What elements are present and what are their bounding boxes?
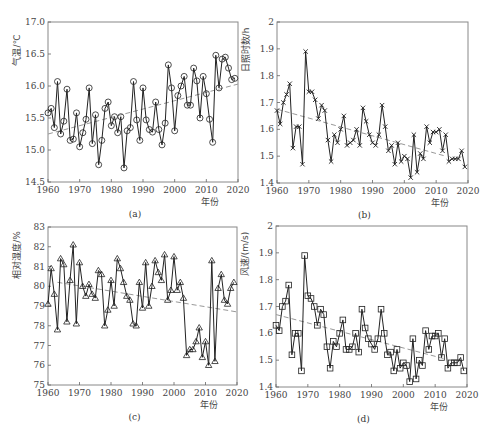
x-tick-label: 2020 <box>457 186 480 196</box>
x-axis-label: 年份 <box>200 399 218 410</box>
x-tick-label: 2000 <box>393 186 416 196</box>
y-tick-label: 1.8 <box>259 275 274 285</box>
x-tick-label: 2000 <box>163 388 186 398</box>
x-tick-label: 1980 <box>329 186 352 196</box>
y-tick-label: 1.4 <box>260 178 275 188</box>
y-tick-label: 81 <box>34 262 45 272</box>
y-axis-label: 日照时数/h <box>240 28 251 73</box>
y-tick-label: 1.6 <box>260 124 275 134</box>
y-tick-label: 1.4 <box>259 382 274 392</box>
data-series-line <box>277 52 465 178</box>
x-tick-label: 1980 <box>100 185 123 195</box>
data-series-line <box>276 256 464 382</box>
x-tick-label: 2010 <box>194 388 217 398</box>
y-tick-label: 2 <box>268 17 274 27</box>
x-axis-label: 年份 <box>431 197 449 208</box>
x-axis-label: 年份 <box>201 196 219 207</box>
y-tick-label: 16.0 <box>25 81 45 91</box>
y-axis-label: 气温/℃ <box>11 34 22 65</box>
y-tick-label: 1.7 <box>260 98 275 108</box>
panel-caption: (a) <box>129 209 141 219</box>
y-tick-label: 14.5 <box>25 177 45 187</box>
y-tick-label: 1.9 <box>260 44 275 54</box>
panel-caption: (c) <box>128 412 140 422</box>
data-series-line <box>48 55 235 168</box>
y-axis-label: 相对湿度/% <box>11 231 22 279</box>
triangle-marker-icon <box>231 279 237 284</box>
x-tick-label: 2020 <box>227 185 250 195</box>
y-tick-label: 15.0 <box>25 145 45 155</box>
panel-c-relative-humidity: 1960197019801990200020102020757677787980… <box>11 222 249 422</box>
y-tick-label: 1.8 <box>260 71 275 81</box>
x-tick-label: 1980 <box>100 388 123 398</box>
y-tick-label: 1.7 <box>259 302 274 312</box>
data-series-line <box>48 245 234 365</box>
x-axis-label: 年份 <box>430 401 448 412</box>
x-tick-label: 2010 <box>424 390 447 400</box>
y-tick-label: 78 <box>34 321 46 331</box>
x-tick-label: 1970 <box>68 388 91 398</box>
y-tick-label: 77 <box>34 341 46 351</box>
plot-frame <box>277 22 468 183</box>
y-tick-label: 15.5 <box>25 113 45 123</box>
y-tick-label: 17.0 <box>25 17 45 27</box>
x-tick-label: 2020 <box>456 390 479 400</box>
y-tick-label: 75 <box>34 380 46 390</box>
figure-canvas: 196019701980199020002010202014.515.015.5… <box>0 0 492 436</box>
y-tick-label: 1.6 <box>259 328 274 338</box>
panel-b-sunshine-hours: 19601970198019902000201020201.41.51.61.7… <box>240 17 480 220</box>
y-tick-label: 2 <box>267 221 273 231</box>
panel-caption: (d) <box>357 414 370 424</box>
y-tick-label: 1.9 <box>259 248 274 258</box>
x-tick-label: 2010 <box>195 185 218 195</box>
plot-frame <box>48 22 238 182</box>
y-tick-label: 80 <box>34 281 46 291</box>
y-tick-label: 1.5 <box>259 355 274 365</box>
y-tick-label: 83 <box>34 222 46 232</box>
plot-frame <box>276 226 467 387</box>
x-tick-label: 2000 <box>392 390 415 400</box>
panel-d-wind-speed: 19601970198019902000201020201.41.51.61.7… <box>240 221 479 424</box>
x-tick-label: 1970 <box>297 186 320 196</box>
x-tick-label: 1970 <box>68 185 91 195</box>
x-tick-label: 1990 <box>360 390 383 400</box>
trend-line <box>277 109 446 156</box>
x-tick-label: 2000 <box>163 185 186 195</box>
x-tick-label: 1990 <box>132 185 155 195</box>
x-tick-label: 2010 <box>425 186 448 196</box>
x-tick-label: 1970 <box>296 390 319 400</box>
y-tick-label: 76 <box>34 360 46 370</box>
y-tick-label: 1.5 <box>260 151 275 161</box>
y-tick-label: 16.5 <box>25 49 45 59</box>
panel-caption: (b) <box>358 210 371 220</box>
y-tick-label: 79 <box>34 301 46 311</box>
x-tick-label: 1990 <box>131 388 154 398</box>
x-tick-label: 1980 <box>328 390 351 400</box>
panel-a-temperature: 196019701980199020002010202014.515.015.5… <box>11 17 250 219</box>
x-tick-label: 1990 <box>361 186 384 196</box>
y-axis-label: 风速/(m/s) <box>240 232 250 277</box>
x-tick-label: 2020 <box>226 388 249 398</box>
y-tick-label: 82 <box>34 242 45 252</box>
